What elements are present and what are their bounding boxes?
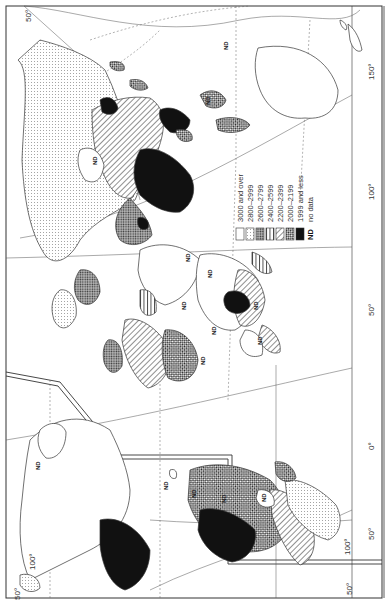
nd-label: ND: [207, 269, 213, 278]
degree-label-top-left: 50°: [24, 10, 33, 22]
map-canvas: ND ND ND ND ND ND ND ND ND ND ND ND ND N…: [0, 0, 388, 604]
nd-label: ND: [221, 494, 227, 503]
legend-label: 2800–2999: [246, 184, 255, 222]
land-masses: [18, 20, 362, 592]
legend-swatch: [276, 228, 284, 240]
legend-swatch: [266, 228, 274, 240]
legend-label: 2200–2399: [276, 184, 285, 222]
degree-label-50: 50°: [367, 304, 376, 316]
legend-swatch: [296, 228, 304, 240]
legend-item-3000-over: 3000 and over: [236, 174, 245, 240]
nd-label: ND: [211, 326, 217, 335]
degree-label-bottom: 50°: [345, 583, 354, 595]
degree-label-bottom-left: 50°: [13, 588, 22, 600]
legend-item-no-data: ND no data: [306, 196, 315, 240]
legend-swatch: [286, 228, 294, 240]
nd-label: ND: [163, 481, 169, 490]
nd-label: ND: [257, 336, 263, 345]
degree-label-100-lower: 100°: [343, 538, 352, 555]
degree-label-left-100: 100°: [28, 553, 37, 570]
nd-label: ND: [223, 41, 229, 50]
nd-label-greenland: ND: [35, 461, 41, 470]
legend-item-2000-2199: 2000–2199: [286, 184, 295, 240]
legend-item-2200-2399: 2200–2399: [276, 184, 285, 240]
legend-label: 2000–2199: [286, 184, 295, 222]
nd-label: ND: [253, 301, 259, 310]
nd-label: ND: [185, 253, 191, 262]
legend-swatch: [246, 228, 254, 240]
legend-item-2600-2799: 2600–2799: [256, 184, 265, 240]
nd-label-mongolia: ND: [92, 156, 98, 165]
nd-label: ND: [191, 489, 197, 498]
nd-label: ND: [205, 96, 211, 105]
degree-label-150: 150°: [367, 63, 376, 80]
legend: 3000 and over 2800–2999 2600–2799 2400–2…: [236, 174, 315, 240]
legend-item-2400-2599: 2400–2599: [266, 184, 275, 240]
nd-label: ND: [200, 356, 206, 365]
degree-label-100: 100°: [367, 183, 376, 200]
nd-label: ND: [181, 301, 187, 310]
degree-label-50-bottom-panel: 50°: [367, 528, 376, 540]
legend-swatch: [256, 228, 264, 240]
legend-label: no data: [306, 196, 315, 222]
world-choropleth-map: ND ND ND ND ND ND ND ND ND ND ND ND ND N…: [0, 0, 388, 604]
legend-item-1999-less: 1999 and less: [296, 175, 305, 240]
legend-swatch: [236, 228, 244, 240]
legend-label: 2400–2599: [266, 184, 275, 222]
legend-label: 1999 and less: [296, 175, 305, 222]
legend-item-2800-2999: 2800–2999: [246, 184, 255, 240]
degree-label-0: 0°: [367, 442, 376, 450]
legend-label: 2600–2799: [256, 184, 265, 222]
legend-nd-code: ND: [306, 229, 315, 240]
nd-label: ND: [261, 493, 267, 502]
legend-label: 3000 and over: [236, 174, 245, 222]
